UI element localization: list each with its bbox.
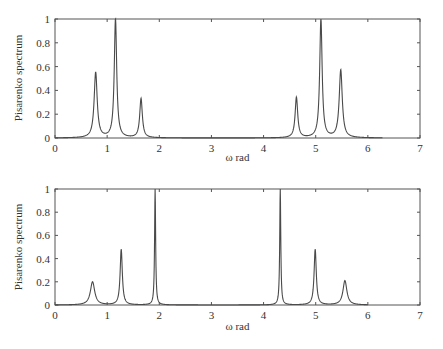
y-axis-label: Pisarenko spectrum: [12, 34, 24, 121]
bottom-spectrum-plot: 0123456700.20.40.60.81ω radPisarenko spe…: [12, 183, 423, 332]
x-tick-label: 1: [104, 309, 110, 321]
x-tick-label: 7: [417, 142, 423, 154]
y-tick-label: 0.2: [36, 108, 50, 120]
x-axis-label: ω rad: [225, 151, 250, 163]
y-tick-label: 0.2: [36, 276, 50, 288]
y-tick-label: 0.6: [36, 229, 50, 241]
x-tick-label: 3: [209, 309, 215, 321]
y-tick-label: 0: [45, 132, 51, 144]
x-tick-label: 4: [261, 309, 267, 321]
x-tick-label: 2: [157, 309, 163, 321]
y-tick-label: 0.6: [36, 61, 50, 73]
x-tick-label: 4: [261, 142, 267, 154]
x-tick-label: 5: [313, 142, 319, 154]
y-tick-label: 0: [45, 299, 51, 311]
y-tick-label: 1: [45, 13, 51, 25]
x-axis-label: ω rad: [225, 320, 250, 332]
x-tick-label: 0: [52, 142, 58, 154]
y-tick-label: 0.8: [36, 206, 50, 218]
plot-frame: [55, 189, 420, 305]
y-tick-label: 1: [45, 183, 51, 195]
plot-frame: [55, 19, 420, 138]
x-tick-label: 5: [313, 309, 319, 321]
x-tick-label: 1: [104, 142, 110, 154]
y-axis-label: Pisarenko spectrum: [12, 203, 24, 290]
top-spectrum-plot: 0123456700.20.40.60.81ω radPisarenko spe…: [12, 13, 423, 163]
x-tick-label: 3: [209, 142, 215, 154]
x-tick-label: 0: [52, 309, 58, 321]
pisarenko-spectrum-figure: 0123456700.20.40.60.81ω radPisarenko spe…: [0, 0, 443, 349]
x-tick-label: 2: [157, 142, 163, 154]
spectrum-curve: [55, 189, 368, 305]
y-tick-label: 0.4: [36, 84, 50, 96]
x-tick-label: 6: [365, 309, 371, 321]
x-tick-label: 6: [365, 142, 371, 154]
y-tick-label: 0.8: [36, 37, 50, 49]
spectrum-curve: [55, 19, 382, 138]
y-tick-label: 0.4: [36, 253, 50, 265]
x-tick-label: 7: [417, 309, 423, 321]
